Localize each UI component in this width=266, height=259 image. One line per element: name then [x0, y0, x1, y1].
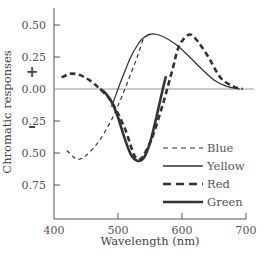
y-tick-label: 0.00	[22, 83, 47, 96]
x-tick-label: 400	[44, 224, 65, 237]
curve-blue	[67, 38, 144, 160]
legend: BlueYellowRedGreen	[163, 141, 245, 209]
legend-item-blue: Blue	[163, 141, 234, 155]
legend-item-yellow: Yellow	[163, 159, 245, 173]
y-axis-title: Chromatic responses	[0, 50, 14, 173]
negative-sign: –	[28, 117, 36, 135]
chart: 0.500.250.000.250.500.75 400500600700 + …	[0, 0, 266, 259]
legend-label: Green	[207, 195, 243, 209]
positive-sign: +	[26, 63, 39, 81]
y-tick-label: 0.75	[22, 179, 47, 192]
x-tick-label: 700	[236, 224, 257, 237]
x-axis-title: Wavelength (nm)	[100, 234, 199, 248]
legend-label: Red	[207, 177, 230, 191]
y-tick-label: 0.50	[22, 147, 47, 160]
curve-yellow	[112, 34, 240, 107]
legend-item-green: Green	[163, 195, 243, 209]
legend-label: Blue	[207, 141, 234, 155]
legend-item-red: Red	[163, 177, 230, 191]
legend-label: Yellow	[206, 159, 245, 173]
y-tick-label: 0.50	[22, 19, 47, 32]
